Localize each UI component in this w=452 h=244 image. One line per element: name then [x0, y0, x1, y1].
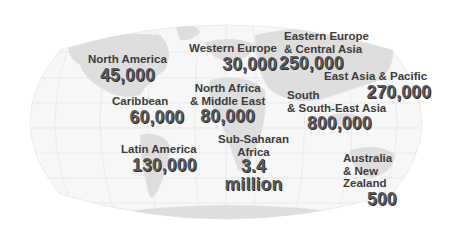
- region-label: Australia: [343, 152, 397, 165]
- region-value: 500: [367, 191, 397, 209]
- region-label: South: [287, 89, 386, 102]
- region-value: 80,000: [190, 108, 265, 126]
- region-latin-america: Latin America 130,000: [121, 143, 197, 174]
- region-label: Sub-Saharan: [218, 133, 289, 146]
- region-label: Zealand: [343, 177, 397, 190]
- region-value: 30,000: [189, 56, 277, 74]
- region-label: Eastern Europe: [284, 30, 369, 43]
- region-eastern-europe-central-asia: Eastern Europe & Central Asia 250,000: [284, 30, 369, 73]
- region-value: 60,000: [112, 109, 184, 127]
- region-north-america: North America 45,000: [88, 53, 167, 84]
- region-label: Western Europe: [189, 42, 277, 55]
- region-label: Caribbean: [112, 95, 168, 108]
- region-caribbean: Caribbean 60,000: [112, 95, 168, 126]
- region-western-europe: Western Europe 30,000: [189, 42, 277, 73]
- region-value: 800,000: [307, 115, 386, 133]
- region-north-africa-middle-east: North Africa & Middle East 80,000: [190, 82, 265, 126]
- region-label: Latin America: [121, 143, 197, 156]
- region-label: & New: [343, 165, 397, 178]
- region-australia-new-zealand: Australia & New Zealand 500: [343, 152, 397, 208]
- region-south-south-east-asia: South & South-East Asia 800,000: [287, 89, 386, 133]
- region-value: 130,000: [121, 157, 197, 175]
- region-label: East Asia & Pacific: [324, 70, 427, 83]
- region-value: million: [218, 176, 289, 194]
- region-label: North America: [88, 53, 167, 66]
- region-label: North Africa: [190, 82, 265, 95]
- region-sub-saharan-africa: Sub-Saharan Africa 3.4 million: [218, 133, 289, 193]
- region-value: 45,000: [88, 67, 155, 85]
- region-value: 3.4: [218, 158, 289, 176]
